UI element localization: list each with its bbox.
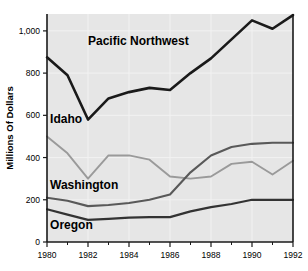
line-chart: 02004006008001,000 198019821984198619881… — [0, 0, 308, 271]
y-tick-label: 800 — [26, 68, 40, 78]
x-tick-label: 1982 — [79, 250, 98, 260]
x-tick-label: 1992 — [284, 250, 303, 260]
x-axis-tick-labels: 1980198219841986198819901992 — [38, 250, 303, 260]
series-label-idaho: Idaho — [50, 112, 82, 126]
series-label-pacific-northwest: Pacific Northwest — [88, 34, 189, 48]
series-label-washington: Washington — [50, 178, 118, 192]
y-tick-label: 1,000 — [19, 26, 41, 36]
y-tick-label: 600 — [26, 110, 40, 120]
x-tick-label: 1988 — [202, 250, 221, 260]
series-label-oregon: Oregon — [50, 218, 93, 232]
chart-container: 02004006008001,000 198019821984198619881… — [0, 0, 308, 271]
y-tick-label: 400 — [26, 153, 40, 163]
x-tick-label: 1990 — [243, 250, 262, 260]
y-axis-title: Millions Of Dollars — [4, 86, 15, 169]
x-tick-label: 1984 — [120, 250, 139, 260]
x-tick-label: 1980 — [38, 250, 57, 260]
y-axis-tick-labels: 02004006008001,000 — [19, 26, 41, 247]
y-tick-label: 0 — [35, 237, 40, 247]
x-tick-label: 1986 — [161, 250, 180, 260]
y-tick-label: 200 — [26, 195, 40, 205]
